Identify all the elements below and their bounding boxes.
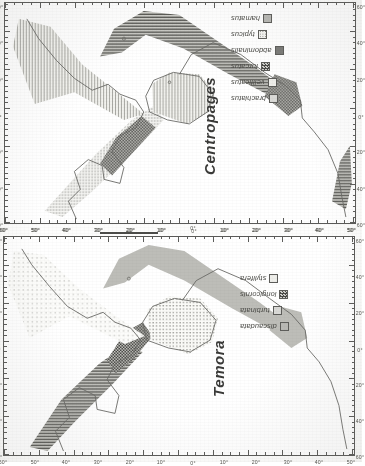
legend-swatch — [258, 30, 267, 39]
axis-tick-label: 40° — [357, 185, 365, 191]
axis-tick-label: 20° — [0, 149, 3, 155]
legend-swatch — [269, 94, 278, 103]
axis-tick-label: 20° — [357, 149, 365, 155]
axis-tick-label: 40° — [0, 274, 2, 280]
axis-tick-label: 40° — [315, 227, 323, 233]
axis-tick-label: 20° — [356, 310, 364, 316]
legend-swatch — [263, 14, 272, 23]
panel-temora: Temora discaudata turbinata longicornis — [0, 234, 362, 462]
axis-tick-label: 40° — [315, 459, 323, 465]
map-frame-temora: Temora discaudata turbinata longicornis — [3, 236, 355, 456]
axis-tick-label: 40° — [0, 185, 3, 191]
legend-label: discaudata — [240, 322, 277, 331]
axis-tick-label: 60° — [0, 238, 2, 244]
axis-tick-label: 20° — [252, 227, 260, 233]
axis-tick-label: 40° — [356, 274, 364, 280]
axis-tick-label: 0° — [358, 114, 363, 120]
axis-tick-label: 60° — [0, 454, 2, 460]
axis-tick-label: 0° — [0, 114, 2, 120]
axis-tick-label: 50° — [348, 227, 356, 233]
axis-tick-label: 0° — [190, 460, 195, 466]
axis-tick-label: 50° — [347, 227, 355, 233]
legend-item: velificatus — [231, 78, 277, 87]
axis-tick-label: 30° — [94, 459, 102, 465]
coastline-temora — [4, 237, 353, 455]
axis-tick-label: 60° — [357, 222, 365, 228]
axis-tick-label: 40° — [357, 40, 365, 46]
legend-swatch — [275, 46, 284, 55]
axis-tick-label: 20° — [252, 459, 260, 465]
legend-label: stylifera — [240, 274, 266, 283]
legend-item: discaudata — [240, 322, 289, 331]
legend-label: velificatus — [231, 78, 265, 87]
legend-swatch — [273, 306, 282, 315]
axis-tick-label: 10° — [157, 227, 165, 233]
axis-tick-label: 60° — [356, 238, 364, 244]
axis-tick-label: 60° — [0, 227, 8, 233]
axis-tick-label: 20° — [125, 459, 133, 465]
axis-tick-label: 20° — [0, 382, 2, 388]
axis-tick-label: 20° — [356, 382, 364, 388]
coastline-centropages — [5, 3, 354, 223]
axis-tick-label: 60° — [0, 4, 3, 10]
axis-tick-label: 0° — [0, 347, 1, 353]
axis-tick-label: 60° — [0, 459, 7, 465]
legend-label: hamatus — [231, 14, 260, 23]
axis-tick-label: 40° — [63, 227, 71, 233]
axis-tick-label: 10° — [157, 459, 165, 465]
legend-label: typicus — [231, 30, 255, 39]
axis-tick-label: 50° — [31, 227, 39, 233]
legend-item: abdominalis — [231, 46, 284, 55]
axis-tick-label: 40° — [356, 418, 364, 424]
axis-tick-label: 40° — [0, 40, 3, 46]
axis-tick-label: 50° — [30, 227, 38, 233]
legend-centropages: brachiatus velificatus furcatus abdomina… — [231, 14, 284, 103]
axis-tick-label: 60° — [0, 227, 7, 233]
legend-item: longicornis — [240, 290, 288, 299]
axis-tick-label: 60° — [0, 222, 3, 228]
axis-tick-label: 20° — [0, 310, 2, 316]
panel-centropages: Centropages brachiatus velificatus furca… — [0, 0, 362, 228]
genus-label-centropages: Centropages — [201, 77, 218, 175]
legend-swatch — [280, 322, 289, 331]
legend-temora: discaudata turbinata longicornis stylife… — [240, 274, 289, 331]
legend-item: furcatus — [231, 62, 270, 71]
genus-label-temora: Temora — [210, 340, 227, 397]
axis-tick-label: 50° — [347, 459, 355, 465]
legend-label: longicornis — [240, 290, 276, 299]
axis-tick-label: 40° — [62, 459, 70, 465]
axis-tick-label: 30° — [284, 227, 292, 233]
axis-tick-label: 40° — [316, 227, 324, 233]
axis-tick-label: 60° — [357, 4, 365, 10]
axis-tick-label: 20° — [0, 76, 3, 82]
axis-tick-label: 60° — [356, 454, 364, 460]
legend-label: turbinata — [240, 306, 270, 315]
axis-tick-label: 10° — [221, 227, 229, 233]
legend-item: stylifera — [240, 274, 278, 283]
axis-tick-label: 20° — [253, 227, 261, 233]
legend-swatch — [268, 78, 277, 87]
legend-swatch — [261, 62, 270, 71]
axis-tick-label: 10° — [158, 227, 166, 233]
legend-item: brachiatus — [231, 94, 278, 103]
legend-item: hamatus — [231, 14, 272, 23]
axis-tick-label: 0° — [357, 347, 362, 353]
map-frame-centropages: Centropages brachiatus velificatus furca… — [4, 2, 356, 224]
axis-tick-label: 10° — [220, 459, 228, 465]
axis-tick-label: 20° — [357, 76, 365, 82]
legend-label: abdominalis — [231, 46, 272, 55]
legend-label: brachiatus — [231, 94, 266, 103]
legend-swatch — [269, 274, 278, 283]
legend-swatch — [279, 290, 288, 299]
legend-item: turbinata — [240, 306, 282, 315]
legend-label: furcatus — [231, 62, 258, 71]
axis-tick-label: 10° — [220, 227, 228, 233]
axis-tick-label: 30° — [283, 227, 291, 233]
legend-item: typicus — [231, 30, 267, 39]
axis-tick-label: 40° — [0, 418, 2, 424]
axis-tick-label: 40° — [62, 227, 70, 233]
axis-tick-label: 50° — [30, 459, 38, 465]
axis-tick-label: 30° — [283, 459, 291, 465]
